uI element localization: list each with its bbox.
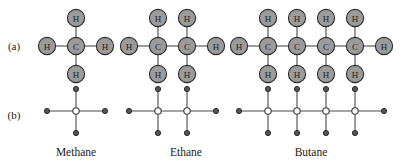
skeleton-hydrogen-node bbox=[126, 108, 131, 113]
skeleton-carbon-node bbox=[73, 108, 79, 114]
skeleton-hydrogen-node bbox=[352, 86, 357, 91]
atom-circle bbox=[346, 9, 363, 26]
atom-circle bbox=[67, 37, 84, 54]
atom-circle bbox=[288, 65, 305, 82]
atom-circle bbox=[317, 9, 334, 26]
skeleton-carbon-node bbox=[352, 108, 358, 114]
atom-circle bbox=[375, 37, 392, 54]
hydrogen-atom: H bbox=[178, 9, 195, 26]
hydrogen-atom: H bbox=[120, 37, 137, 54]
atom-circle bbox=[288, 37, 305, 54]
molecular-diagram: CHHHHCCHHHHHHCCCCHHHHHHHHHH (a)(b) Metha… bbox=[0, 0, 409, 163]
atom-circle bbox=[178, 37, 195, 54]
atom-circle bbox=[120, 37, 137, 54]
carbon-atom: C bbox=[346, 37, 363, 54]
hydrogen-atom: H bbox=[259, 65, 276, 82]
hydrogen-atom: H bbox=[67, 65, 84, 82]
caption-ethane: Ethane bbox=[170, 146, 202, 158]
hydrogen-atom: H bbox=[288, 9, 305, 26]
atom-circle bbox=[346, 65, 363, 82]
hydrogen-atom: H bbox=[207, 37, 224, 54]
skeleton-hydrogen-node bbox=[73, 86, 78, 91]
hydrogen-atom: H bbox=[288, 65, 305, 82]
skeleton-hydrogen-node bbox=[265, 86, 270, 91]
skeleton-hydrogen-node bbox=[381, 108, 386, 113]
row-label-layer: (a)(b) bbox=[8, 40, 21, 122]
hydrogen-atom: H bbox=[38, 37, 55, 54]
atom-circle bbox=[346, 37, 363, 54]
carbon-atom: C bbox=[178, 37, 195, 54]
hydrogen-atom: H bbox=[230, 37, 247, 54]
skeleton-carbon-node bbox=[265, 108, 271, 114]
skeleton-hydrogen-node bbox=[44, 108, 49, 113]
hydrogen-atom: H bbox=[149, 65, 166, 82]
carbon-atom: C bbox=[317, 37, 334, 54]
hydrogen-atom: H bbox=[317, 65, 334, 82]
hydrogen-atom: H bbox=[67, 9, 84, 26]
atom-circle bbox=[149, 65, 166, 82]
atom-circle bbox=[67, 65, 84, 82]
skeleton-hydrogen-node bbox=[102, 108, 107, 113]
hydrogen-atom: H bbox=[346, 9, 363, 26]
atom-circle bbox=[207, 37, 224, 54]
skeleton-hydrogen-node bbox=[155, 86, 160, 91]
row-label-row-a: (a) bbox=[8, 40, 21, 53]
skeleton-hydrogen-node bbox=[236, 108, 241, 113]
carbon-atom: C bbox=[149, 37, 166, 54]
atom-circle bbox=[149, 37, 166, 54]
atom-circle bbox=[259, 9, 276, 26]
hydrogen-atom: H bbox=[149, 9, 166, 26]
hydrogen-atom: H bbox=[178, 65, 195, 82]
caption-layer: MethaneEthaneButane bbox=[56, 146, 327, 158]
atom-circle bbox=[149, 9, 166, 26]
atom-circle bbox=[317, 65, 334, 82]
atom-circle bbox=[288, 9, 305, 26]
alkane-structures-figure: CHHHHCCHHHHHHCCCCHHHHHHHHHH (a)(b) Metha… bbox=[0, 0, 409, 163]
hydrogen-atom: H bbox=[346, 65, 363, 82]
skeleton-carbon-node bbox=[184, 108, 190, 114]
hydrogen-atom: H bbox=[317, 9, 334, 26]
atom-circle bbox=[178, 65, 195, 82]
atom-circle bbox=[259, 37, 276, 54]
skeleton-hydrogen-node bbox=[294, 86, 299, 91]
carbon-atom: C bbox=[288, 37, 305, 54]
caption-methane: Methane bbox=[56, 146, 96, 158]
skeleton-hydrogen-node bbox=[265, 130, 270, 135]
atom-circle bbox=[38, 37, 55, 54]
atom-circle bbox=[67, 9, 84, 26]
hydrogen-atom: H bbox=[375, 37, 392, 54]
carbon-atom: C bbox=[259, 37, 276, 54]
atom-circle bbox=[230, 37, 247, 54]
skeleton-hydrogen-node bbox=[155, 130, 160, 135]
row-label-row-b: (b) bbox=[8, 109, 21, 122]
atom-circle bbox=[178, 9, 195, 26]
atom-circle bbox=[259, 65, 276, 82]
skeleton-hydrogen-node bbox=[213, 108, 218, 113]
caption-butane: Butane bbox=[295, 146, 328, 158]
atom-circle bbox=[317, 37, 334, 54]
skeleton-hydrogen-node bbox=[184, 130, 189, 135]
skeleton-hydrogen-node bbox=[323, 86, 328, 91]
skeleton-carbon-node bbox=[294, 108, 300, 114]
skeleton-hydrogen-node bbox=[352, 130, 357, 135]
carbon-atom: C bbox=[67, 37, 84, 54]
hydrogen-atom: H bbox=[259, 9, 276, 26]
skeleton-hydrogen-node bbox=[323, 130, 328, 135]
skeleton-hydrogen-node bbox=[184, 86, 189, 91]
hydrogen-atom: H bbox=[96, 37, 113, 54]
skeleton-hydrogen-node bbox=[73, 130, 78, 135]
skeleton-hydrogen-node bbox=[294, 130, 299, 135]
skeleton-carbon-node bbox=[323, 108, 329, 114]
skeleton-carbon-node bbox=[155, 108, 161, 114]
atom-circle bbox=[96, 37, 113, 54]
